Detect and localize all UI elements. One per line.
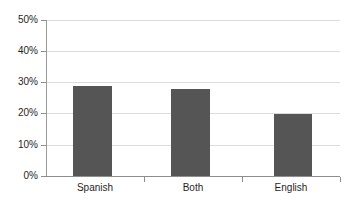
y-tick-mark-0 bbox=[41, 176, 46, 177]
y-tick-label-30: 30% bbox=[2, 77, 38, 87]
x-tick-mark-1 bbox=[144, 177, 145, 182]
y-tick-label-0: 0% bbox=[2, 171, 38, 181]
y-tick-label-20: 20% bbox=[2, 108, 38, 118]
bar-chart: 50% 40% 30% 20% 10% 0% Spanish Both Engl… bbox=[0, 0, 356, 205]
gridline-30 bbox=[46, 82, 340, 83]
y-tick-mark-40 bbox=[41, 51, 46, 52]
bar-both bbox=[171, 89, 210, 176]
bar-english bbox=[274, 114, 312, 176]
x-tick-mark-3 bbox=[340, 177, 341, 182]
plot-area bbox=[46, 20, 340, 176]
x-category-label-english: English bbox=[249, 182, 333, 193]
y-tick-mark-10 bbox=[41, 145, 46, 146]
x-axis-line bbox=[46, 176, 340, 177]
y-tick-mark-50 bbox=[41, 20, 46, 21]
y-tick-label-40: 40% bbox=[2, 46, 38, 56]
x-tick-mark-2 bbox=[242, 177, 243, 182]
x-category-label-both: Both bbox=[151, 182, 235, 193]
y-axis-line bbox=[46, 20, 47, 177]
gridline-50 bbox=[46, 20, 340, 21]
gridline-40 bbox=[46, 51, 340, 52]
x-category-label-spanish: Spanish bbox=[53, 182, 137, 193]
bar-spanish bbox=[73, 86, 112, 176]
y-tick-label-10: 10% bbox=[2, 140, 38, 150]
y-tick-label-50: 50% bbox=[2, 15, 38, 25]
y-tick-mark-20 bbox=[41, 113, 46, 114]
y-tick-mark-30 bbox=[41, 82, 46, 83]
